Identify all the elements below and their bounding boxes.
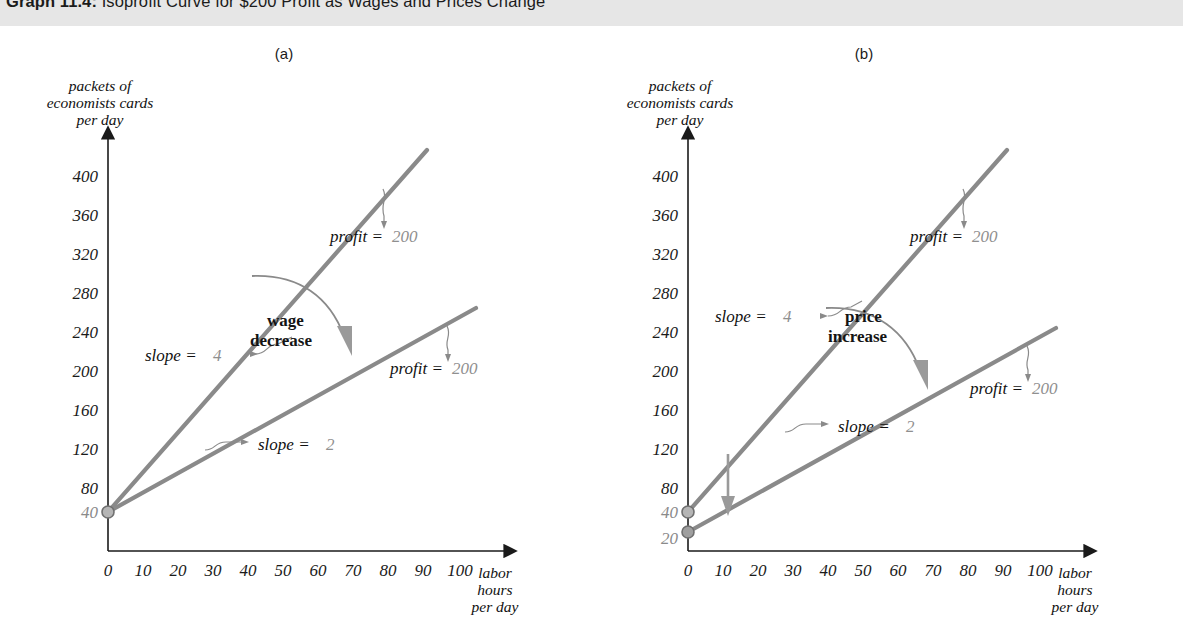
svg-text:packets of: packets of	[68, 77, 134, 94]
svg-text:4: 4	[783, 307, 792, 326]
y-axis-title-a: packets of economists cards per day	[47, 77, 154, 128]
chart-panel-b: (b) packets of economists cards per day …	[580, 26, 1171, 637]
svg-text:20: 20	[170, 561, 188, 580]
svg-text:280: 280	[653, 284, 679, 303]
profit-callout-b-steep: profit = 200	[909, 189, 998, 246]
svg-text:profit =: profit =	[909, 227, 963, 246]
profit-callout-a-steep: profit = 200	[329, 189, 418, 246]
svg-text:per day: per day	[471, 598, 519, 615]
svg-text:economists cards: economists cards	[47, 94, 154, 111]
svg-text:hours: hours	[1057, 581, 1092, 598]
svg-text:50: 50	[275, 561, 293, 580]
svg-text:120: 120	[73, 440, 99, 459]
x-axis-title-b: labor hours per day	[1051, 564, 1099, 615]
intercept-marker-b-40	[682, 506, 694, 518]
svg-text:economists cards: economists cards	[627, 94, 734, 111]
svg-text:200: 200	[73, 362, 99, 381]
svg-text:4: 4	[213, 346, 222, 365]
y-axis-title-b: packets of economists cards per day	[627, 77, 734, 128]
svg-text:240: 240	[653, 323, 679, 342]
svg-text:80: 80	[960, 561, 978, 580]
x-axis-title-a: labor hours per day	[471, 564, 519, 615]
svg-text:per day: per day	[1051, 598, 1099, 615]
svg-text:increase: increase	[828, 327, 888, 346]
svg-text:0: 0	[684, 561, 693, 580]
svg-text:70: 70	[925, 561, 943, 580]
svg-text:slope =: slope =	[715, 307, 767, 326]
svg-text:0: 0	[104, 561, 113, 580]
y-tick-labels-a: 400 360 320 280 240 200 160 120 80 40	[72, 167, 99, 522]
x-tick-labels-a: 0 10 20 30 40 50 60 70 80 90 100	[104, 561, 474, 580]
svg-text:80: 80	[380, 561, 398, 580]
svg-text:200: 200	[653, 362, 679, 381]
svg-text:360: 360	[652, 206, 679, 225]
slope-callout-b-steep: slope = 4	[715, 301, 862, 326]
slope-callout-a-flat: slope = 2	[205, 435, 335, 454]
svg-text:per day: per day	[76, 111, 124, 128]
svg-text:slope =: slope =	[258, 435, 310, 454]
svg-text:120: 120	[653, 440, 679, 459]
svg-text:labor: labor	[1058, 564, 1093, 581]
page-title: Graph 11.4: Isoprofit Curve for $200 Pro…	[6, 0, 545, 11]
svg-text:60: 60	[890, 561, 908, 580]
svg-text:160: 160	[73, 401, 99, 420]
svg-text:200: 200	[972, 227, 998, 246]
svg-text:400: 400	[73, 167, 99, 186]
svg-text:decrease: decrease	[250, 331, 312, 350]
svg-text:320: 320	[72, 245, 99, 264]
figure-body: (a) packets of economists cards per day …	[0, 26, 1183, 637]
panel-label-b: (b)	[855, 45, 873, 62]
intercept-marker-a-40	[102, 506, 114, 518]
svg-text:packets of: packets of	[648, 77, 714, 94]
svg-text:slope =: slope =	[838, 417, 890, 436]
intercept-marker-b-20	[682, 526, 694, 538]
svg-text:100: 100	[447, 561, 473, 580]
svg-text:2: 2	[906, 417, 915, 436]
svg-text:240: 240	[73, 323, 99, 342]
shift-annotation-a: wage decrease	[250, 276, 352, 356]
svg-text:slope =: slope =	[145, 346, 197, 365]
svg-text:price: price	[845, 307, 882, 326]
svg-text:wage: wage	[267, 311, 304, 330]
chart-svg-b: (b) packets of economists cards per day …	[580, 26, 1171, 637]
svg-text:profit =: profit =	[969, 379, 1023, 398]
svg-text:labor: labor	[478, 564, 513, 581]
svg-text:280: 280	[73, 284, 99, 303]
svg-text:30: 30	[784, 561, 803, 580]
svg-text:40: 40	[240, 561, 258, 580]
svg-text:per day: per day	[656, 111, 704, 128]
svg-text:profit =: profit =	[389, 359, 443, 378]
svg-text:90: 90	[415, 561, 433, 580]
y-intercept-label-b-20: 20	[661, 529, 679, 548]
svg-text:360: 360	[72, 206, 99, 225]
chart-svg-a: (a) packets of economists cards per day …	[0, 26, 591, 637]
svg-text:60: 60	[310, 561, 328, 580]
svg-text:90: 90	[995, 561, 1013, 580]
svg-text:320: 320	[652, 245, 679, 264]
svg-text:100: 100	[1027, 561, 1053, 580]
svg-text:80: 80	[81, 479, 99, 498]
svg-text:hours: hours	[477, 581, 512, 598]
panel-label-a: (a)	[275, 45, 293, 62]
chart-panel-a: (a) packets of economists cards per day …	[0, 26, 591, 637]
x-tick-labels-b: 0 10 20 30 40 50 60 70 80 90 100	[684, 561, 1054, 580]
figure-number: Graph 11.4:	[6, 0, 97, 10]
y-tick-labels-b: 400 360 320 280 240 200 160 120 80 40 20	[652, 167, 679, 548]
y-intercept-label-a-1: 40	[81, 503, 99, 522]
svg-text:50: 50	[855, 561, 873, 580]
svg-text:profit =: profit =	[329, 227, 383, 246]
slope-callout-b-flat: slope = 2	[785, 417, 915, 436]
svg-text:70: 70	[345, 561, 363, 580]
svg-text:10: 10	[135, 561, 153, 580]
svg-text:160: 160	[653, 401, 679, 420]
svg-text:400: 400	[653, 167, 679, 186]
svg-text:20: 20	[750, 561, 768, 580]
svg-text:10: 10	[715, 561, 733, 580]
svg-text:80: 80	[661, 479, 679, 498]
svg-text:2: 2	[326, 435, 335, 454]
shift-annotation-b: price increase	[826, 307, 928, 390]
svg-text:200: 200	[392, 227, 418, 246]
figure-caption: Isoprofit Curve for $200 Profit as Wages…	[102, 0, 546, 10]
svg-text:200: 200	[1032, 379, 1058, 398]
svg-text:30: 30	[204, 561, 223, 580]
